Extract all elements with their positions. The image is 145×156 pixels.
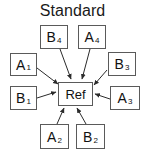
node-a3-subscript: 3: [127, 98, 132, 109]
node-b1-base: B: [16, 91, 25, 105]
node-a2-subscript: 2: [56, 137, 61, 148]
node-b3-subscript: 3: [124, 64, 129, 75]
edge-layer: [0, 0, 145, 156]
node-a3[interactable]: A3: [110, 86, 140, 110]
diagram-canvas: Standard B4 A4 A1 B1 B3 A3: [0, 0, 145, 156]
node-b1[interactable]: B1: [10, 86, 37, 110]
node-b3[interactable]: B3: [108, 52, 136, 76]
edge-a3-ref: [95, 94, 110, 99]
node-a1-base: A: [16, 58, 25, 72]
edge-b4-ref: [60, 49, 71, 79]
node-b1-subscript: 1: [25, 98, 30, 109]
node-a2[interactable]: A2: [40, 124, 69, 149]
edge-a4-ref: [82, 49, 90, 79]
edge-a1-ref: [37, 68, 58, 84]
edge-b1-ref: [37, 92, 56, 98]
node-b2[interactable]: B2: [76, 124, 105, 149]
node-b2-base: B: [83, 130, 92, 144]
node-b4-subscript: 4: [56, 37, 61, 48]
node-a2-base: A: [47, 130, 56, 144]
node-a1-subscript: 1: [25, 64, 30, 75]
node-b3-base: B: [115, 57, 124, 71]
node-ref[interactable]: Ref: [58, 82, 93, 106]
node-a4[interactable]: A4: [78, 25, 106, 49]
node-a1[interactable]: A1: [10, 53, 37, 76]
node-b2-subscript: 2: [92, 137, 97, 148]
node-a4-base: A: [85, 30, 94, 44]
edge-b2-ref: [77, 108, 86, 124]
node-a3-base: A: [118, 91, 127, 105]
node-b4-base: B: [47, 30, 56, 44]
node-b4[interactable]: B4: [40, 25, 68, 49]
edge-a2-ref: [57, 108, 64, 124]
node-a4-subscript: 4: [94, 37, 99, 48]
edge-b3-ref: [94, 70, 107, 85]
